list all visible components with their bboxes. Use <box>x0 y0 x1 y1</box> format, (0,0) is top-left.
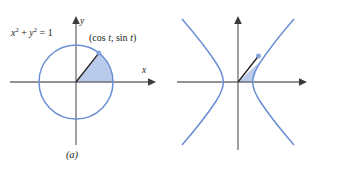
shaded-sector-a <box>76 53 113 82</box>
pt-a-open: (cos <box>89 32 108 43</box>
equation-label-circle: x2 + y2 = 1 <box>11 28 53 38</box>
figure-container: x2 + y2 = 1 (cos t, sin t) y x (a) <box>0 0 339 173</box>
eq-a-equals: = 1 <box>37 27 53 38</box>
y-axis-arrow-a <box>72 16 80 24</box>
point-marker-b <box>256 54 260 58</box>
x-axis-label-a: x <box>142 66 146 76</box>
panel-b-plot <box>169 0 339 173</box>
caption-a: (a) <box>60 150 84 161</box>
pt-a-close: ) <box>133 32 136 43</box>
y-axis-arrow-b <box>234 16 242 24</box>
y-axis-label-a: y <box>80 17 84 27</box>
pt-a-mid: , sin <box>111 32 130 43</box>
point-marker-a <box>97 51 101 55</box>
x-axis-arrow-b <box>299 78 307 86</box>
panel-b-unit-hyperbola: x2 − y2 = 1 (cosh t, sinh t) y x (b) <box>169 0 339 173</box>
x-axis-arrow-a <box>148 78 156 86</box>
eq-a-operator: + <box>19 27 30 38</box>
point-label-circle: (cos t, sin t) <box>89 33 136 43</box>
panel-a-plot <box>0 0 170 173</box>
panel-a-unit-circle: x2 + y2 = 1 (cos t, sin t) y x (a) <box>0 0 170 173</box>
